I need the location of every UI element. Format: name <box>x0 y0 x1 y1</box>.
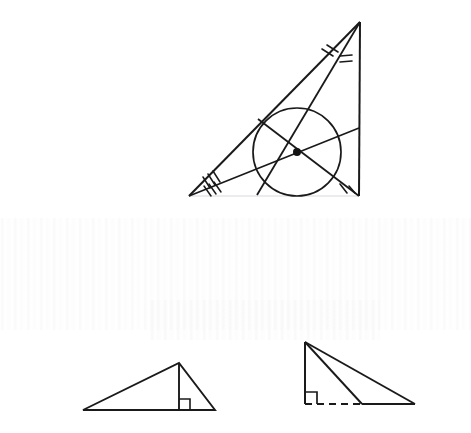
hypotenuse-right-figure <box>305 342 415 404</box>
main-triangle-edge-right <box>359 22 360 196</box>
bisector-from-bottom-right <box>258 119 359 196</box>
right-angle-marker-left-figure <box>179 399 190 410</box>
scanned-worksheet-page <box>0 0 471 433</box>
bisector-from-bottom-left <box>189 128 359 196</box>
angle-tick-apex-right <box>340 55 352 62</box>
triangle-left <box>83 363 215 410</box>
main-triangle-edge-left <box>189 22 360 196</box>
figure-1-triangle-with-incircle <box>189 22 360 196</box>
bisector-from-apex <box>257 22 360 195</box>
figure-2-acute-triangle <box>83 363 215 410</box>
cevian-to-foot-right-figure <box>305 342 362 404</box>
figure-3-right-triangle <box>305 342 415 404</box>
incenter-point <box>293 148 301 156</box>
geometry-figures-canvas <box>0 0 471 433</box>
right-angle-marker-right-figure <box>305 392 317 404</box>
